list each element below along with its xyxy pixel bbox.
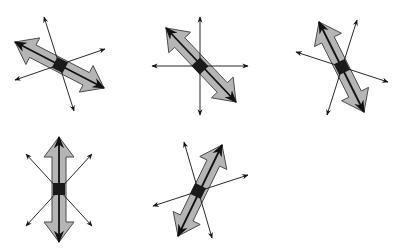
figure-2 [152, 17, 248, 115]
figure-1 [15, 17, 105, 111]
center-square-icon [53, 183, 65, 195]
figure-3 [296, 20, 388, 115]
figure-5 [153, 142, 248, 238]
diagram-canvas [0, 0, 398, 252]
figure-4 [26, 137, 92, 242]
